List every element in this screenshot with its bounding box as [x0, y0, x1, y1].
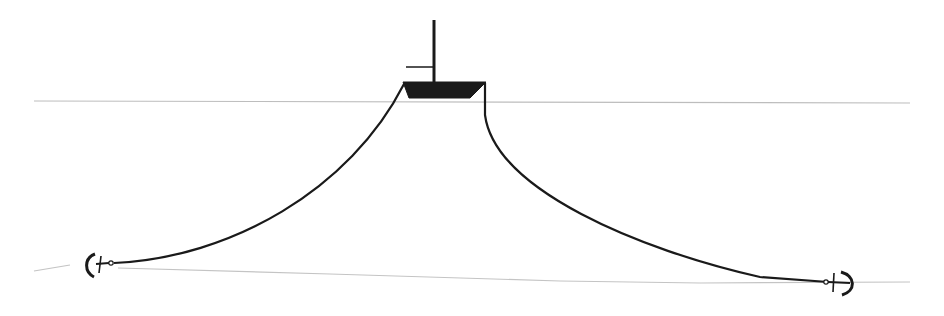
right-mooring-line: [485, 83, 828, 282]
seabed-line: [118, 268, 910, 283]
water-surface-line: [34, 101, 910, 103]
left-mooring-line: [114, 84, 404, 263]
right-anchor-icon: [824, 272, 853, 295]
vessel-hull: [403, 82, 486, 98]
mooring-diagram: [0, 0, 944, 316]
seabed-line-left-stub: [34, 265, 70, 271]
left-anchor-icon: [87, 254, 114, 277]
diagram-svg: [0, 0, 944, 316]
